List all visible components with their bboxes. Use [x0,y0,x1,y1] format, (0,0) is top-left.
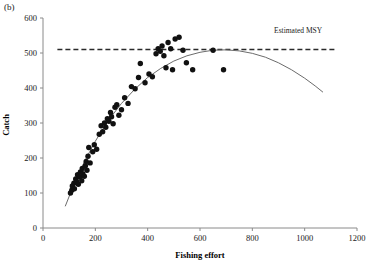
chart-annotations: Estimated MSY [274,26,323,35]
data-point [114,102,119,107]
x-tick-label: 800 [246,233,259,243]
data-point [116,113,121,118]
data-point [176,35,181,40]
data-point [85,154,90,159]
data-point [210,48,215,53]
x-tick-label: 400 [141,233,154,243]
data-point [125,101,130,106]
data-point [180,48,185,53]
data-point [72,186,77,191]
x-tick-label: 200 [89,233,102,243]
chart-page: (b) 0100200300400500600 0200400600800100… [0,0,368,263]
data-point [103,125,108,130]
y-tick-label: 600 [24,13,37,23]
data-point [158,49,163,54]
data-point [190,67,195,72]
x-tick-label: 0 [41,233,45,243]
data-point [170,67,175,72]
data-point [150,74,155,79]
data-point [82,174,87,179]
data-point [136,75,141,80]
data-point [119,107,124,112]
x-tick-label: 1000 [296,233,313,243]
data-point [132,86,137,91]
data-point [138,61,143,66]
data-point [122,95,127,100]
y-tick-label: 0 [33,223,37,233]
data-point [159,43,164,48]
data-point [184,60,189,65]
data-point [94,147,99,152]
data-point [100,129,105,134]
data-point [109,114,114,119]
data-point [86,145,91,150]
x-tick-label: 600 [194,233,207,243]
data-point [221,67,226,72]
y-tick-label: 500 [24,48,37,58]
data-point [84,168,89,173]
y-tick-label: 100 [24,188,37,198]
y-tick-label: 300 [24,118,37,128]
y-tick-label: 200 [24,153,37,163]
msy-annotation-label: Estimated MSY [274,26,323,35]
data-point [87,160,92,165]
data-point [79,178,84,183]
scatter-chart: 0100200300400500600 02004006008001000120… [0,0,368,263]
data-point [168,46,173,51]
data-point [161,53,166,58]
scatter-points [68,35,226,196]
y-tick-label: 400 [24,83,37,93]
y-axis-title: Catch [1,114,11,136]
y-axis-ticks: 0100200300400500600 [24,13,43,233]
data-point [142,80,147,85]
x-axis-ticks: 020040060080010001200 [41,228,366,243]
data-point [110,121,115,126]
x-axis-title: Fishing effort [175,250,225,260]
data-point [163,65,168,70]
data-point [165,40,170,45]
x-tick-label: 1200 [349,233,366,243]
